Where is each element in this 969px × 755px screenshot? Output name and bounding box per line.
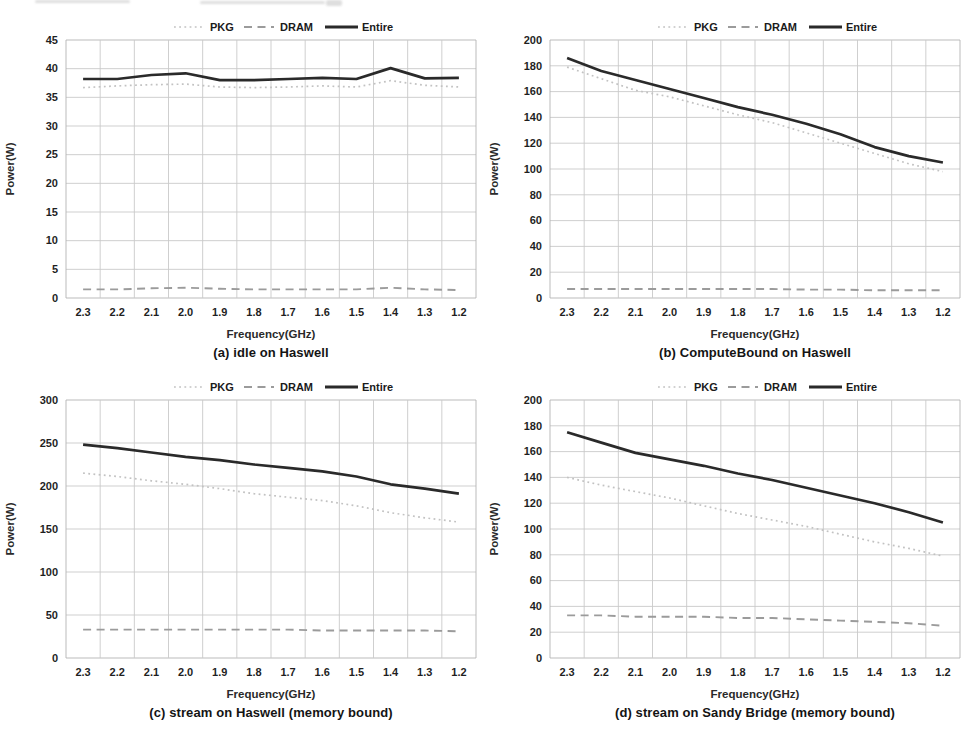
svg-text:1.8: 1.8 <box>246 306 261 318</box>
svg-text:2.3: 2.3 <box>75 306 90 318</box>
y-axis-ticks: 051015202530354045 <box>46 34 58 304</box>
svg-text:80: 80 <box>530 189 542 201</box>
svg-text:60: 60 <box>530 214 542 226</box>
y-axis-title: Power(W) <box>4 502 16 555</box>
legend: PKGDRAMEntire <box>174 21 393 33</box>
svg-text:10: 10 <box>46 234 58 246</box>
svg-text:2.1: 2.1 <box>628 666 643 678</box>
svg-text:25: 25 <box>46 148 58 160</box>
svg-text:40: 40 <box>530 600 542 612</box>
svg-text:1.2: 1.2 <box>935 666 950 678</box>
legend: PKGDRAMEntire <box>658 21 877 33</box>
y-axis-title: Power(W) <box>4 142 16 195</box>
legend-label-dram: DRAM <box>764 381 797 393</box>
svg-text:2.2: 2.2 <box>110 666 125 678</box>
x-axis-ticks: 2.32.22.12.01.91.81.71.61.51.41.31.2 <box>75 666 466 678</box>
svg-text:40: 40 <box>46 62 58 74</box>
svg-text:180: 180 <box>524 60 542 72</box>
svg-text:2.0: 2.0 <box>178 666 193 678</box>
svg-text:2.1: 2.1 <box>628 306 643 318</box>
svg-text:1.9: 1.9 <box>696 666 711 678</box>
svg-text:1.7: 1.7 <box>280 306 295 318</box>
svg-text:20: 20 <box>530 266 542 278</box>
chart-caption-b: (b) ComputeBound on Haswell <box>513 344 969 360</box>
svg-text:20: 20 <box>530 626 542 638</box>
svg-text:150: 150 <box>40 523 58 535</box>
legend-label-pkg: PKG <box>210 21 234 33</box>
svg-text:200: 200 <box>524 34 542 46</box>
svg-text:1.5: 1.5 <box>833 306 848 318</box>
svg-text:300: 300 <box>40 394 58 406</box>
svg-text:2.2: 2.2 <box>594 306 609 318</box>
svg-text:100: 100 <box>40 566 58 578</box>
svg-text:100: 100 <box>524 523 542 535</box>
svg-text:2.0: 2.0 <box>178 306 193 318</box>
legend-label-dram: DRAM <box>764 21 797 33</box>
svg-text:1.9: 1.9 <box>212 666 227 678</box>
svg-text:160: 160 <box>524 445 542 457</box>
svg-text:1.8: 1.8 <box>246 666 261 678</box>
svg-text:1.4: 1.4 <box>867 666 883 678</box>
scan-artifact <box>200 1 325 4</box>
svg-text:100: 100 <box>524 163 542 175</box>
svg-text:1.6: 1.6 <box>799 666 814 678</box>
legend-label-entire: Entire <box>362 21 393 33</box>
svg-text:1.6: 1.6 <box>315 306 330 318</box>
legend: PKGDRAMEntire <box>174 381 393 393</box>
svg-text:2.0: 2.0 <box>662 666 677 678</box>
svg-text:180: 180 <box>524 420 542 432</box>
svg-text:1.7: 1.7 <box>764 666 779 678</box>
svg-text:1.4: 1.4 <box>383 666 399 678</box>
chart-figure-a: 0510152025303540452.32.22.12.01.91.81.71… <box>0 14 484 360</box>
svg-text:1.4: 1.4 <box>867 306 883 318</box>
svg-text:2.1: 2.1 <box>144 666 159 678</box>
chart-canvas-stream-sandybridge: 0204060801001201401601802002.32.22.12.01… <box>484 374 968 704</box>
svg-text:1.3: 1.3 <box>417 306 432 318</box>
chart-figure-b: 0204060801001201401601802002.32.22.12.01… <box>484 14 968 360</box>
svg-text:1.8: 1.8 <box>730 306 745 318</box>
svg-text:5: 5 <box>52 263 58 275</box>
svg-text:35: 35 <box>46 91 58 103</box>
gridlines <box>66 400 476 658</box>
y-axis-ticks: 020406080100120140160180200 <box>524 394 542 664</box>
svg-text:20: 20 <box>46 177 58 189</box>
y-axis-title: Power(W) <box>488 142 500 195</box>
svg-text:2.3: 2.3 <box>559 306 574 318</box>
gridlines <box>550 40 960 298</box>
legend-label-pkg: PKG <box>210 381 234 393</box>
chart-canvas-idle-haswell: 0510152025303540452.32.22.12.01.91.81.71… <box>0 14 484 344</box>
legend-label-pkg: PKG <box>694 21 718 33</box>
svg-text:1.2: 1.2 <box>451 666 466 678</box>
svg-text:1.5: 1.5 <box>349 666 364 678</box>
x-axis-ticks: 2.32.22.12.01.91.81.71.61.51.41.31.2 <box>559 666 950 678</box>
svg-text:1.9: 1.9 <box>212 306 227 318</box>
svg-text:2.1: 2.1 <box>144 306 159 318</box>
svg-text:200: 200 <box>524 394 542 406</box>
x-axis-title: Frequency(GHz) <box>227 328 316 340</box>
svg-text:1.9: 1.9 <box>696 306 711 318</box>
svg-text:160: 160 <box>524 85 542 97</box>
svg-text:0: 0 <box>52 652 58 664</box>
svg-text:1.5: 1.5 <box>349 306 364 318</box>
svg-text:1.3: 1.3 <box>901 306 916 318</box>
svg-text:50: 50 <box>46 609 58 621</box>
svg-text:1.6: 1.6 <box>315 666 330 678</box>
legend-label-entire: Entire <box>846 21 877 33</box>
scan-artifact <box>35 0 130 3</box>
charts-grid: 0510152025303540452.32.22.12.01.91.81.71… <box>0 0 969 720</box>
y-axis-title: Power(W) <box>488 502 500 555</box>
legend-label-pkg: PKG <box>694 381 718 393</box>
svg-text:2.3: 2.3 <box>75 666 90 678</box>
x-axis-title: Frequency(GHz) <box>227 688 316 700</box>
svg-text:15: 15 <box>46 206 58 218</box>
svg-text:120: 120 <box>524 137 542 149</box>
figure-page: 0510152025303540452.32.22.12.01.91.81.71… <box>0 0 969 755</box>
svg-text:140: 140 <box>524 471 542 483</box>
svg-text:0: 0 <box>536 292 542 304</box>
chart-figure-d: 0204060801001201401601802002.32.22.12.01… <box>484 374 968 720</box>
chart-figure-c: 0501001502002503002.32.22.12.01.91.81.71… <box>0 374 484 720</box>
svg-text:1.4: 1.4 <box>383 306 399 318</box>
svg-text:1.6: 1.6 <box>799 306 814 318</box>
x-axis-title: Frequency(GHz) <box>711 688 800 700</box>
svg-text:1.2: 1.2 <box>935 306 950 318</box>
